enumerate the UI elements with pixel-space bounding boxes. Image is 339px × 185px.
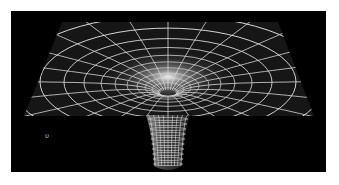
well-throat xyxy=(146,115,190,170)
gravity-well-graphic xyxy=(11,11,326,172)
gravity-well-figure: υ xyxy=(11,11,326,172)
faint-mark: υ xyxy=(45,133,49,140)
